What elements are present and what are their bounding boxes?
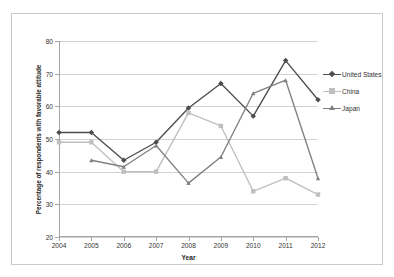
x-axis-tick	[124, 237, 125, 241]
legend-swatch-diamond-icon	[323, 69, 341, 80]
x-axis-tick	[91, 237, 92, 241]
chart-legend: United StatesChinaJapan	[323, 66, 391, 117]
x-axis-title: Year	[59, 254, 318, 261]
data-point	[89, 140, 93, 144]
data-point	[251, 189, 255, 193]
x-axis-tick-label: 2009	[214, 242, 229, 249]
x-axis-tick-label: 2005	[84, 242, 99, 249]
data-point	[283, 176, 287, 180]
x-axis-tick-label: 2010	[246, 242, 261, 249]
chart-frame: Percentage of respondents with favorable…	[11, 13, 383, 265]
data-point	[154, 144, 158, 148]
y-axis-tick-label: 60	[46, 103, 53, 110]
x-axis-tick	[189, 237, 190, 241]
x-axis-tick	[286, 237, 287, 241]
y-axis-tick-label: 30	[46, 201, 53, 208]
series-lines	[59, 41, 318, 237]
data-point	[57, 140, 61, 144]
legend-label: United States	[341, 71, 382, 78]
x-axis-tick	[221, 237, 222, 241]
x-axis-tick	[156, 237, 157, 241]
x-axis-tick-label: 2004	[52, 242, 67, 249]
legend-swatch-square-icon	[323, 86, 341, 97]
legend-item-china[interactable]: China	[323, 83, 391, 100]
x-axis-tick-label: 2007	[149, 242, 164, 249]
legend-swatch-triangle-icon	[323, 103, 341, 114]
y-axis-title: Percentage of respondents with favorable…	[33, 41, 45, 237]
x-axis-tick-label: 2006	[116, 242, 131, 249]
data-point	[316, 192, 320, 196]
data-point	[219, 124, 223, 128]
data-point	[316, 176, 320, 180]
x-axis-tick-label: 2012	[311, 242, 326, 249]
plot-area: 20304050607080 2004200520062007200820092…	[59, 41, 318, 237]
x-axis-tick-label: 2011	[279, 242, 293, 249]
x-axis-tick	[253, 237, 254, 241]
legend-item-united-states[interactable]: United States	[323, 66, 391, 83]
series-japan	[89, 78, 320, 185]
data-point	[154, 169, 158, 173]
data-point	[186, 111, 190, 115]
y-axis-tick-label: 40	[46, 168, 53, 175]
legend-item-japan[interactable]: Japan	[323, 100, 391, 117]
legend-label: China	[341, 88, 359, 95]
y-axis-tick-label: 70	[46, 70, 53, 77]
data-point	[219, 155, 223, 159]
y-axis-tick-label: 50	[46, 136, 53, 143]
y-axis-title-text: Percentage of respondents with favorable…	[36, 64, 43, 214]
legend-label: Japan	[341, 105, 360, 112]
data-point	[122, 169, 126, 173]
x-axis-tick-label: 2008	[181, 242, 196, 249]
x-axis-tick	[318, 237, 319, 241]
y-axis-tick-label: 20	[46, 234, 53, 241]
data-point	[56, 130, 61, 135]
y-axis-tick-label: 80	[46, 38, 53, 45]
x-axis-tick	[59, 237, 60, 241]
